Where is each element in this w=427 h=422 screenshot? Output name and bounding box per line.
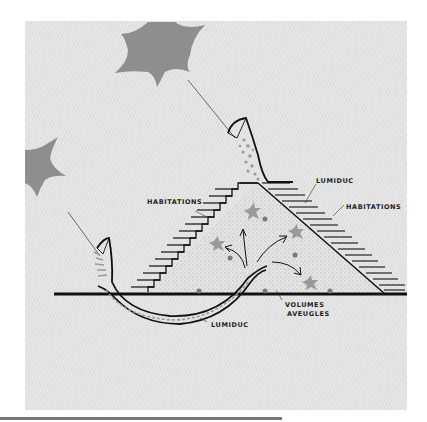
sun-left-icon: [25, 137, 66, 197]
lumiduc-top: [228, 118, 293, 182]
bottom-divider: [0, 417, 282, 420]
label-lumiduc-top: LUMIDUC: [316, 177, 354, 185]
sun-top-icon: [115, 22, 205, 87]
diagram-panel: LUMIDUC HABITATIONS HABITATIONS VOLUMES …: [25, 21, 407, 410]
light-ray-top: [188, 80, 235, 138]
label-lumiduc-bottom: LUMIDUC: [211, 321, 249, 329]
diagram-canvas: [25, 21, 407, 410]
label-habitations-right: HABITATIONS: [346, 203, 401, 211]
label-volumes-aveugles-1: VOLUMES: [285, 301, 324, 309]
light-ray-left: [68, 212, 100, 256]
label-volumes-aveugles-2: AVEUGLES: [287, 310, 330, 318]
label-habitations-left: HABITATIONS: [147, 198, 202, 206]
